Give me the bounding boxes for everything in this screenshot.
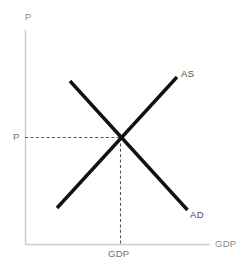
aggregate-supply-curve [57,77,177,208]
aggregate-demand-curve [70,81,188,210]
as-ad-chart: P GDP P GDP AS AD [0,0,247,272]
chart-canvas [0,0,247,272]
aggregate-demand-curve-label: AD [190,209,204,220]
y-tick-label-equilibrium-price: P [13,131,20,142]
x-axis-title: GDP [215,238,237,249]
x-tick-label-equilibrium-output: GDP [108,248,130,259]
y-axis-title: P [25,11,32,22]
aggregate-supply-curve-label: AS [181,68,194,79]
